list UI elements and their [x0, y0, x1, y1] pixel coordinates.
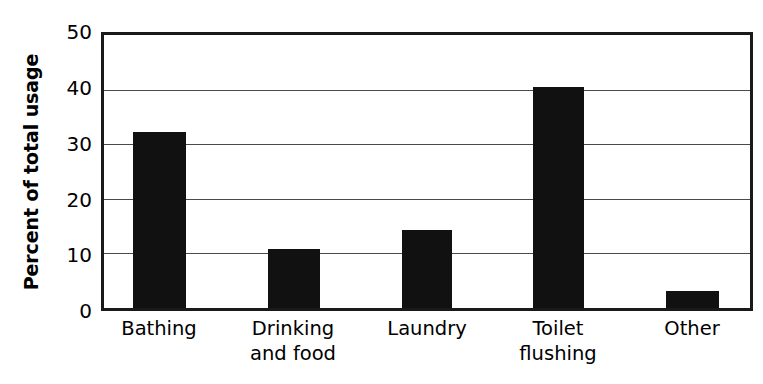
- bar-bathing: [133, 132, 186, 308]
- bars-layer: [104, 35, 750, 308]
- bar-drinking-and-food: [268, 249, 320, 308]
- x-label-other: Other: [602, 316, 763, 341]
- y-axis-title: Percent of total usage: [19, 32, 43, 312]
- y-tick-label-50: 50: [48, 22, 92, 42]
- y-tick-label-30: 30: [48, 134, 92, 154]
- bar-laundry: [402, 230, 452, 308]
- bar-toilet-flushing: [533, 87, 584, 308]
- y-tick-label-40: 40: [48, 78, 92, 98]
- x-axis-tick-labels: Bathing Drinking and food Laundry Toilet…: [0, 316, 763, 384]
- y-tick-label-20: 20: [48, 190, 92, 210]
- bar-chart: Percent of total usage 50 40 30 20 10 0 …: [0, 0, 763, 384]
- bar-other: [666, 291, 719, 308]
- plot-area: [101, 32, 753, 311]
- y-tick-label-10: 10: [48, 245, 92, 265]
